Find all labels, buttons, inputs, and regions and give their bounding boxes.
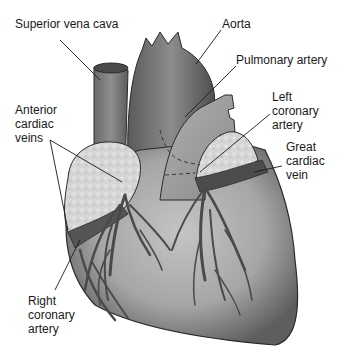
- label-great-cardiac-vein: Great cardiac vein: [286, 140, 325, 182]
- label-anterior-cardiac-veins: Anterior cardiac veins: [15, 103, 57, 145]
- label-pulmonary-artery: Pulmonary artery: [236, 53, 327, 67]
- label-left-coronary-artery: Left coronary artery: [272, 90, 319, 132]
- label-right-coronary-artery: Right coronary artery: [28, 294, 75, 336]
- label-superior-vena-cava: Superior vena cava: [15, 17, 118, 31]
- label-aorta: Aorta: [222, 17, 251, 31]
